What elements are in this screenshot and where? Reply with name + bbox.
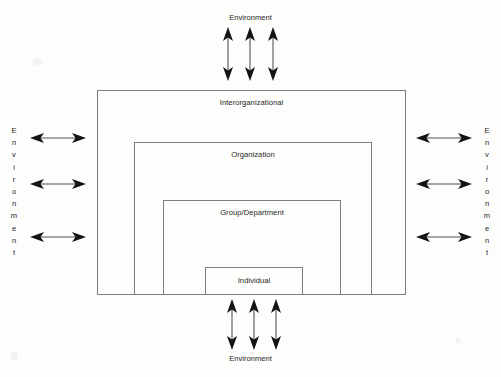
environment-letter: t	[481, 247, 493, 259]
environment-letter: v	[8, 149, 20, 161]
scan-artifact	[33, 58, 42, 65]
environment-letter: m	[481, 210, 493, 222]
environment-letter: e	[8, 223, 20, 235]
environment-letter: n	[8, 137, 20, 149]
diagram-canvas: Environment E n v i r o	[0, 0, 501, 377]
environment-letter: o	[481, 186, 493, 198]
level-label-group-department: Group/Department	[164, 209, 340, 217]
environment-letter: n	[481, 198, 493, 210]
environment-arrows-left	[30, 132, 86, 244]
level-label-organization: Organization	[135, 151, 371, 159]
scan-artifact	[455, 338, 461, 343]
environment-arrows-bottom	[226, 299, 284, 350]
environment-arrows-top	[222, 27, 284, 81]
level-box-individual: Individual	[205, 267, 303, 295]
environment-letter: i	[481, 162, 493, 174]
environment-letter: o	[8, 186, 20, 198]
level-label-interorganizational: Interorganizational	[98, 99, 405, 107]
environment-letter: n	[481, 235, 493, 247]
environment-letter: r	[8, 174, 20, 186]
level-label-individual: Individual	[206, 277, 302, 285]
environment-letter: E	[8, 125, 20, 137]
environment-letter: r	[481, 174, 493, 186]
environment-letter: n	[481, 137, 493, 149]
environment-label-bottom: Environment	[0, 355, 501, 363]
environment-letter: n	[8, 235, 20, 247]
environment-letter: m	[8, 210, 20, 222]
environment-label-right: E n v i r o n m e n t	[481, 125, 493, 259]
environment-letter: n	[8, 198, 20, 210]
environment-letter: i	[8, 162, 20, 174]
environment-arrows-right	[416, 132, 472, 244]
environment-label-left: E n v i r o n m e n t	[8, 125, 20, 259]
environment-letter: v	[481, 149, 493, 161]
environment-letter: E	[481, 125, 493, 137]
environment-letter: t	[8, 247, 20, 259]
environment-label-top: Environment	[0, 14, 501, 22]
environment-letter: e	[481, 223, 493, 235]
